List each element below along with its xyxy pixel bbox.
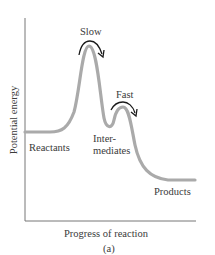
- x-axis-label: Progress of reaction: [64, 228, 148, 240]
- figure-caption: (a): [103, 243, 115, 255]
- slow-step-label: Slow: [80, 26, 102, 38]
- products-label: Products: [154, 186, 191, 198]
- intermediates-label-line2: mediates: [93, 145, 130, 157]
- y-axis-label: Potential energy: [8, 86, 19, 154]
- energy-curve: [25, 46, 195, 180]
- reactants-label: Reactants: [29, 142, 70, 154]
- fast-step-label: Fast: [116, 89, 134, 101]
- intermediates-label-line1: Inter-: [93, 133, 116, 145]
